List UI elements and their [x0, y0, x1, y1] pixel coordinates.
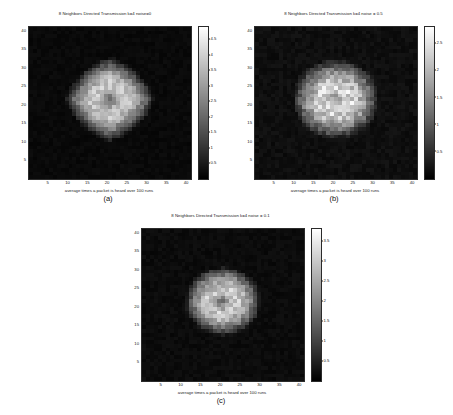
- subplot-a-heatmap[interactable]: [28, 26, 192, 180]
- subplot-a-panel-label: (a): [78, 194, 138, 203]
- subplot-b-xticks: 510152025303540: [254, 180, 416, 188]
- x-tick-label: 20: [218, 382, 223, 387]
- subplot-b: 8 Neighbors Directed Transmission k=4 no…: [226, 8, 453, 213]
- colorbar-tick-label: 0.5: [321, 358, 329, 363]
- colorbar-tick-mark: [321, 300, 323, 301]
- colorbar-tick-label: 2.5: [321, 278, 329, 283]
- y-tick-label: 20: [21, 101, 26, 106]
- subplot-c-yticks: 510152025303540: [125, 228, 139, 380]
- x-tick-label: 30: [144, 180, 149, 185]
- y-tick-label: 40: [247, 27, 252, 32]
- colorbar-tick-mark: [208, 70, 210, 71]
- subplot-b-heatmap-canvas: [255, 27, 417, 179]
- colorbar-tick-label: 3.5: [208, 67, 216, 72]
- y-tick-label: 15: [21, 120, 26, 125]
- colorbar-tick-mark: [321, 280, 323, 281]
- colorbar-tick-mark: [321, 360, 323, 361]
- y-tick-label: 25: [21, 83, 26, 88]
- y-tick-label: 40: [134, 229, 139, 234]
- y-tick-label: 20: [134, 303, 139, 308]
- x-tick-label: 35: [164, 180, 169, 185]
- colorbar-tick-label: 1: [434, 121, 439, 126]
- figure-canvas: 8 Neighbors Directed Transmission k=4 no…: [0, 0, 453, 415]
- y-tick-label: 30: [134, 266, 139, 271]
- x-tick-label: 15: [85, 180, 90, 185]
- x-tick-label: 25: [350, 180, 355, 185]
- colorbar-tick-label: 3: [321, 258, 326, 263]
- x-tick-label: 5: [47, 180, 49, 185]
- colorbar-tick-mark: [434, 97, 436, 98]
- x-tick-label: 35: [390, 180, 395, 185]
- y-tick-label: 30: [21, 64, 26, 69]
- colorbar-tick-label: 2: [434, 67, 439, 72]
- x-tick-label: 10: [291, 180, 296, 185]
- x-tick-label: 20: [331, 180, 336, 185]
- colorbar-tick-label: 4.5: [208, 36, 216, 41]
- subplot-a-xlabel: average times a packet is heard over 100…: [28, 188, 190, 193]
- colorbar-tick-label: 1: [208, 144, 213, 149]
- x-tick-label: 5: [160, 382, 162, 387]
- colorbar-tick-mark: [208, 147, 210, 148]
- colorbar-tick-mark: [434, 124, 436, 125]
- colorbar-tick-label: 1.5: [434, 94, 442, 99]
- subplot-b-panel-label: (b): [304, 194, 364, 203]
- colorbar-tick-mark: [208, 54, 210, 55]
- subplot-a: 8 Neighbors Directed Transmission k=4 no…: [0, 8, 226, 213]
- colorbar-tick-label: 2: [321, 298, 326, 303]
- x-tick-label: 25: [237, 382, 242, 387]
- colorbar-tick-mark: [208, 85, 210, 86]
- subplot-c-colorbar-ticks: 0.511.522.533.5: [321, 228, 337, 380]
- x-tick-label: 15: [311, 180, 316, 185]
- subplot-a-colorbar-canvas: [199, 27, 208, 179]
- x-tick-label: 10: [178, 382, 183, 387]
- colorbar-tick-label: 1.5: [321, 318, 329, 323]
- colorbar-tick-mark: [321, 340, 323, 341]
- subplot-b-colorbar-canvas: [425, 27, 434, 179]
- colorbar-tick-mark: [321, 240, 323, 241]
- y-tick-label: 5: [250, 157, 252, 162]
- colorbar-tick-mark: [434, 70, 436, 71]
- colorbar-tick-label: 2.5: [208, 98, 216, 103]
- colorbar-tick-mark: [208, 132, 210, 133]
- y-tick-label: 20: [247, 101, 252, 106]
- subplot-c-xlabel: average times a packet is heard over 100…: [141, 390, 303, 395]
- colorbar-tick-mark: [208, 39, 210, 40]
- y-tick-label: 15: [247, 120, 252, 125]
- colorbar-tick-mark: [208, 101, 210, 102]
- subplot-a-yticks: 510152025303540: [12, 26, 26, 178]
- x-tick-label: 40: [297, 382, 302, 387]
- colorbar-tick-mark: [321, 260, 323, 261]
- y-tick-label: 35: [21, 46, 26, 51]
- x-tick-label: 30: [370, 180, 375, 185]
- subplot-b-heatmap[interactable]: [254, 26, 418, 180]
- colorbar-tick-mark: [208, 116, 210, 117]
- subplot-c-title: 8 Neighbors Directed Transmission k=4 no…: [123, 213, 318, 218]
- x-tick-label: 40: [410, 180, 415, 185]
- y-tick-label: 35: [134, 248, 139, 253]
- y-tick-label: 40: [21, 27, 26, 32]
- colorbar-tick-label: 1: [321, 338, 326, 343]
- subplot-c-panel-label: (c): [191, 396, 251, 405]
- subplot-c-heatmap[interactable]: [141, 228, 305, 382]
- subplot-b-title: 8 Neighbors Directed Transmission k=4 no…: [236, 11, 431, 16]
- subplot-a-title: 8 Neighbors Directed Transmission k=4 no…: [10, 11, 200, 16]
- colorbar-tick-mark: [321, 320, 323, 321]
- subplot-c-xticks: 510152025303540: [141, 382, 303, 390]
- x-tick-label: 10: [65, 180, 70, 185]
- x-tick-label: 15: [198, 382, 203, 387]
- colorbar-tick-mark: [208, 163, 210, 164]
- colorbar-tick-mark: [434, 42, 436, 43]
- y-tick-label: 5: [137, 359, 139, 364]
- subplot-b-yticks: 510152025303540: [238, 26, 252, 178]
- x-tick-label: 30: [257, 382, 262, 387]
- subplot-b-xlabel: average times a packet is heard over 100…: [254, 188, 416, 193]
- x-tick-label: 35: [277, 382, 282, 387]
- colorbar-tick-label: 0.5: [434, 148, 442, 153]
- colorbar-tick-label: 3: [208, 82, 213, 87]
- colorbar-tick-label: 1.5: [208, 129, 216, 134]
- subplot-c: 8 Neighbors Directed Transmission k=4 no…: [113, 210, 340, 415]
- subplot-a-colorbar-ticks: 0.511.522.533.544.5: [208, 26, 224, 178]
- y-tick-label: 35: [247, 46, 252, 51]
- subplot-b-colorbar-ticks: 0.511.522.5: [434, 26, 450, 178]
- y-tick-label: 30: [247, 64, 252, 69]
